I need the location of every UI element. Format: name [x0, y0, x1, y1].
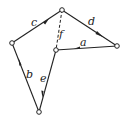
- edge-label-e: e: [40, 72, 47, 85]
- arrow-icon: [19, 58, 22, 66]
- edge-label-d: d: [88, 15, 95, 28]
- node-left: [10, 41, 15, 46]
- edge-label-f: f: [58, 28, 65, 41]
- edge-d: d: [62, 10, 117, 46]
- graph-diagram: c d a e b f: [0, 0, 125, 117]
- edge-label-c: c: [31, 16, 37, 29]
- edge-label-a: a: [80, 36, 87, 49]
- node-bottom: [37, 110, 42, 115]
- edge-label-b: b: [26, 68, 33, 81]
- node-top: [60, 8, 65, 13]
- edge-b: b: [12, 43, 39, 112]
- edge-f: f: [56, 10, 65, 50]
- node-middle: [54, 48, 59, 53]
- arrow-icon: [96, 31, 104, 37]
- edge-a: a: [56, 36, 117, 50]
- edge-e: e: [39, 50, 56, 112]
- node-right: [115, 44, 120, 49]
- edge-c: c: [12, 10, 62, 43]
